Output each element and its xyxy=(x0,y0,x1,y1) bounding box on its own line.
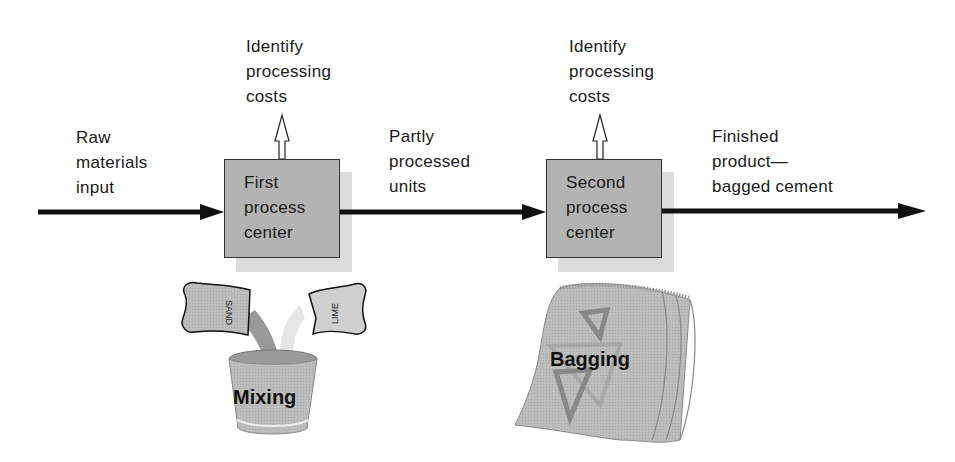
lime-bag-label: LIME xyxy=(330,303,340,324)
first-identify-costs-label: Identify processing costs xyxy=(246,34,331,109)
bagging-label: Bagging xyxy=(550,348,630,371)
second-process-center-box: Second process center xyxy=(546,159,662,258)
input-arrow xyxy=(38,204,224,220)
finished-product-label: Finished product— bagged cement xyxy=(712,124,833,199)
sand-bag-label: SAND xyxy=(224,300,234,326)
first-cost-up-arrow xyxy=(275,115,289,159)
raw-materials-input-label: Raw materials input xyxy=(76,125,148,200)
first-process-center-box: First process center xyxy=(224,159,340,258)
intermediate-arrow xyxy=(340,204,546,220)
second-cost-up-arrow xyxy=(593,115,607,159)
partly-processed-units-label: Partly processed units xyxy=(389,124,470,199)
second-identify-costs-label: Identify processing costs xyxy=(569,34,654,109)
second-process-center-label: Second process center xyxy=(566,170,628,245)
mixing-illustration: SAND LIME xyxy=(182,283,366,435)
diagram-canvas: SAND LIME xyxy=(0,0,955,462)
sand-bag-icon xyxy=(182,283,250,336)
mixing-label: Mixing xyxy=(233,386,296,409)
first-process-center-label: First process center xyxy=(244,170,306,245)
output-arrow xyxy=(662,203,926,219)
